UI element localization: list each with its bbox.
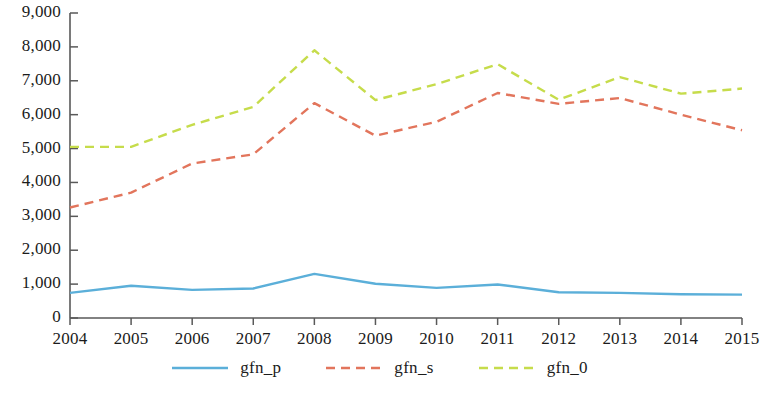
x-axis-tick-label: 2009: [345, 329, 405, 349]
y-axis-tick-label: 3,000: [22, 205, 61, 225]
y-axis-tick-label: 8,000: [22, 36, 61, 56]
legend-label-gfn_s: gfn_s: [394, 358, 433, 378]
y-axis-tick-label: 2,000: [22, 239, 61, 259]
x-axis-tick-label: 2010: [407, 329, 467, 349]
x-axis-tick-label: 2014: [651, 329, 711, 349]
x-axis-tick-label: 2006: [162, 329, 222, 349]
y-axis-tick-label: 6,000: [22, 104, 61, 124]
legend-item-gfn_s[interactable]: gfn_s: [325, 358, 433, 378]
x-axis-tick-label: 2008: [284, 329, 344, 349]
x-axis-tick-label: 2015: [712, 329, 764, 349]
series-lines: [70, 50, 742, 294]
x-axis-tick-label: 2004: [40, 329, 100, 349]
x-axis-tick-label: 2012: [529, 329, 589, 349]
legend-label-gfn_p: gfn_p: [240, 358, 281, 378]
y-axis-tick-label: 5,000: [22, 138, 61, 158]
y-axis-tick-label: 0: [52, 307, 61, 327]
legend-swatch-gfn_s: [325, 361, 383, 375]
series-line-gfn_s: [70, 93, 742, 208]
chart-legend: gfn_pgfn_sgfn_0: [0, 358, 759, 378]
y-axis-tick-label: 9,000: [22, 2, 61, 22]
x-axis-tick-label: 2005: [101, 329, 161, 349]
y-axis-tick-label: 4,000: [22, 171, 61, 191]
legend-item-gfn_0[interactable]: gfn_0: [478, 358, 588, 378]
legend-swatch-gfn_p: [171, 361, 229, 375]
legend-swatch-gfn_0: [478, 361, 536, 375]
legend-label-gfn_0: gfn_0: [547, 358, 588, 378]
legend-item-gfn_p[interactable]: gfn_p: [171, 358, 281, 378]
y-axis-tick-label: 7,000: [22, 70, 61, 90]
series-line-gfn_0: [70, 50, 742, 147]
y-axis-tick-label: 1,000: [22, 273, 61, 293]
axes: [70, 13, 742, 325]
x-axis-tick-label: 2013: [590, 329, 650, 349]
series-line-gfn_p: [70, 274, 742, 295]
x-axis-tick-label: 2011: [468, 329, 528, 349]
x-axis-tick-label: 2007: [223, 329, 283, 349]
